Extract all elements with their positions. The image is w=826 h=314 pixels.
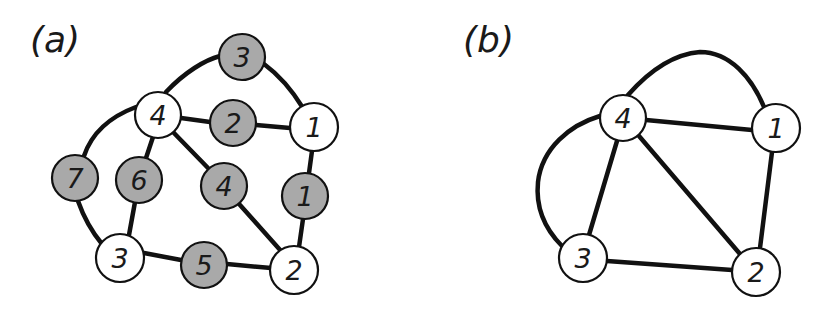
edge-e7-3 <box>78 201 102 244</box>
panel-a-nodes: 3 2 7 6 4 1 5 4 1 3 2 <box>52 34 338 294</box>
edge-e3-1 <box>264 64 303 108</box>
edge-node-label: 3 <box>233 42 250 73</box>
panel-label-b: (b) <box>463 19 514 60</box>
vertex-label: 4 <box>149 100 166 131</box>
edge-e6-3 <box>129 202 135 235</box>
edge-3-2 <box>607 261 732 270</box>
edge-4-1-arc <box>628 52 764 107</box>
edge-4-2 <box>639 136 740 254</box>
edge-e5-2 <box>227 264 271 268</box>
vertex-label: 1 <box>767 113 784 144</box>
vertex-label: 2 <box>285 255 302 286</box>
edge-4-1 <box>646 120 752 130</box>
edge-e2-1 <box>256 125 290 128</box>
vertex-label: 2 <box>747 257 764 288</box>
vertex-label: 4 <box>614 103 631 134</box>
edge-4-3 <box>589 141 617 235</box>
panel-label-a: (a) <box>30 19 80 60</box>
vertex-label: 1 <box>305 112 322 143</box>
edge-node-label: 1 <box>296 181 313 212</box>
edge-3-e5 <box>144 253 181 260</box>
edge-4-e3 <box>166 56 220 92</box>
edge-node-label: 4 <box>215 171 232 202</box>
edge-4-e2 <box>181 118 210 122</box>
edge-node-label: 5 <box>195 250 212 281</box>
edge-node-label: 7 <box>66 163 83 194</box>
edge-e4-2 <box>240 205 281 251</box>
edge-node-label: 2 <box>224 108 241 139</box>
edge-4-e7 <box>84 107 136 156</box>
edge-e1-2 <box>299 219 303 247</box>
edge-1-2 <box>760 152 772 248</box>
edge-1-e1 <box>309 151 312 173</box>
graph-diagram: (a) (b) 3 2 7 6 4 1 5 4 1 3 2 4 1 3 2 <box>0 0 826 314</box>
edge-node-label: 6 <box>130 165 147 196</box>
edge-4-e6 <box>146 137 153 158</box>
edge-4-e4 <box>173 132 208 168</box>
vertex-label: 3 <box>111 243 128 274</box>
vertex-label: 3 <box>574 243 591 274</box>
